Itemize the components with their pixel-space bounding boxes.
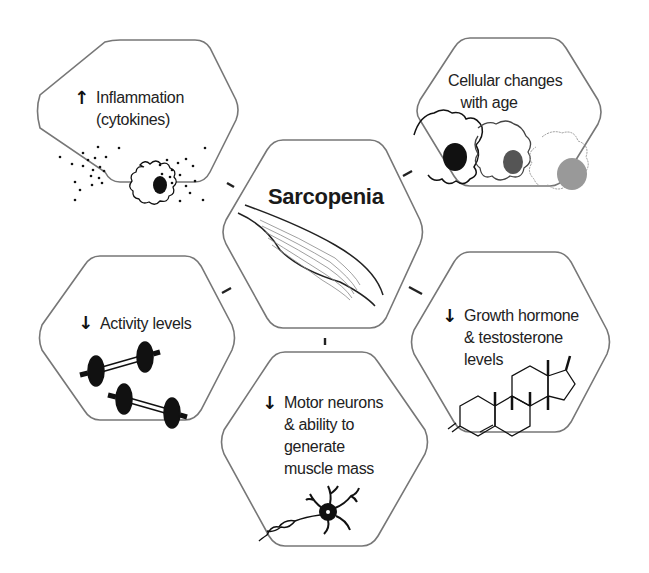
dumbbells-icon: [80, 342, 187, 428]
arrow-up-icon: ↑: [74, 87, 89, 108]
hexagon-center: [223, 140, 423, 328]
arrow-down-icon: ↓: [78, 312, 93, 333]
label-hormones: Growth hormone & testosterone levels: [464, 305, 579, 371]
label-inflammation: Inflammation (cytokines): [96, 87, 184, 131]
title-sarcopenia: Sarcopenia: [268, 184, 384, 210]
muscle-icon: [238, 205, 383, 306]
inflamed-cell-icon: [59, 146, 207, 205]
arrow-down-icon: ↓: [442, 305, 457, 326]
label-cellular: Cellular changes with age: [448, 70, 562, 114]
hexagon-activity: [40, 256, 235, 420]
label-activity: Activity levels: [100, 313, 192, 335]
label-motor: Motor neurons & ability to generate musc…: [284, 392, 383, 480]
arrow-down-icon: ↓: [262, 392, 277, 413]
aging-cells-icon: [414, 110, 588, 190]
neuron-icon: [259, 486, 359, 541]
